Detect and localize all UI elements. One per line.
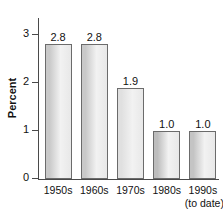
y-tick-label: 3 bbox=[23, 27, 29, 40]
x-label-sublabel: (to date) bbox=[185, 197, 221, 210]
x-axis-line bbox=[38, 179, 219, 180]
x-label-text: 1950s bbox=[44, 184, 73, 196]
y-tick-2: 2 bbox=[32, 82, 39, 83]
x-label-text: 1980s bbox=[152, 184, 181, 196]
bar-value-label: 2.8 bbox=[87, 31, 102, 43]
bar-value-label: 1.0 bbox=[195, 118, 210, 130]
y-tick-label: 2 bbox=[23, 75, 29, 88]
bar-1990s: 1.0 bbox=[189, 131, 216, 179]
y-axis-line bbox=[38, 18, 39, 180]
bar-value-label: 1.0 bbox=[159, 118, 174, 130]
x-label-text: 1960s bbox=[80, 184, 109, 196]
plot-area: 0123 2.82.81.91.01.0 1950s1960s1970s1980… bbox=[38, 18, 219, 180]
y-tick-0: 0 bbox=[32, 178, 39, 179]
x-label-text: 1970s bbox=[116, 184, 145, 196]
bar-1960s: 2.8 bbox=[81, 44, 108, 179]
y-tick-label: 1 bbox=[23, 123, 29, 136]
x-label-text: 1990s bbox=[189, 184, 218, 196]
bar-chart: Percent 0123 2.82.81.91.01.0 1950s1960s1… bbox=[0, 0, 223, 223]
bar-1980s: 1.0 bbox=[153, 131, 180, 179]
x-label-1950s: 1950s bbox=[40, 184, 76, 197]
y-tick-label: 0 bbox=[23, 171, 29, 184]
bar-1950s: 2.8 bbox=[45, 44, 72, 179]
x-label-1980s: 1980s bbox=[149, 184, 185, 197]
bar-value-label: 1.9 bbox=[123, 75, 138, 87]
x-label-1970s: 1970s bbox=[112, 184, 148, 197]
y-tick-1: 1 bbox=[32, 130, 39, 131]
x-label-1960s: 1960s bbox=[76, 184, 112, 197]
y-tick-3: 3 bbox=[32, 34, 39, 35]
x-label-1990s: 1990s(to date) bbox=[185, 184, 221, 210]
bar-1970s: 1.9 bbox=[117, 88, 144, 179]
y-axis-title: Percent bbox=[6, 68, 18, 128]
bar-value-label: 2.8 bbox=[50, 31, 65, 43]
